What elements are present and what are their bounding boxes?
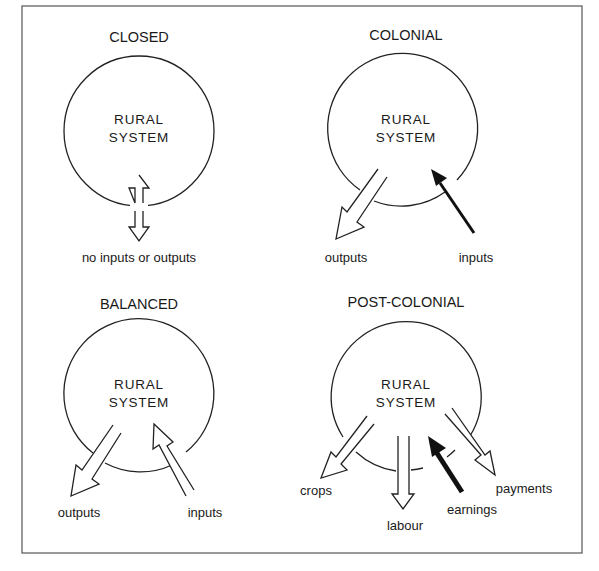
panel-title: COLONIAL: [369, 27, 442, 43]
flow-label-inputs: inputs: [459, 250, 494, 265]
panel-title: POST-COLONIAL: [348, 294, 465, 310]
flow-label-none: no inputs or outputs: [82, 250, 197, 265]
bidirectional-arrow-icon: [129, 175, 149, 241]
panel-closed: CLOSED RURAL SYSTEM no inputs or outputs: [64, 29, 214, 265]
panel-colonial: COLONIAL RURAL SYSTEM outputs inputs: [325, 27, 494, 265]
system-label-line2: SYSTEM: [376, 130, 436, 145]
outputs-outline-arrow-icon: [71, 425, 121, 496]
rural-systems-diagram: CLOSED RURAL SYSTEM no inputs or outputs…: [0, 0, 599, 571]
earnings-solid-arrow-icon: [428, 436, 462, 492]
flow-label-labour: labour: [387, 518, 424, 533]
figure-frame: [22, 6, 582, 553]
system-label-line1: RURAL: [114, 377, 164, 392]
flow-label-outputs: outputs: [325, 250, 368, 265]
panel-title: CLOSED: [109, 29, 169, 45]
crops-outline-arrow-icon: [321, 416, 374, 478]
outputs-outline-arrow-icon: [336, 169, 387, 239]
system-label-line1: RURAL: [381, 112, 431, 127]
system-label-line2: SYSTEM: [109, 130, 169, 145]
payments-outline-arrow-icon: [445, 408, 495, 475]
panel-post-colonial: POST-COLONIAL RURAL SYSTEM crops labour …: [300, 294, 553, 533]
inputs-outline-arrow-icon: [153, 424, 194, 496]
panel-balanced: BALANCED RURAL SYSTEM outputs inputs: [58, 296, 223, 520]
flow-label-inputs: inputs: [188, 505, 223, 520]
system-label-line1: RURAL: [114, 112, 164, 127]
system-label-line1: RURAL: [381, 377, 431, 392]
flow-label-outputs: outputs: [58, 505, 101, 520]
flow-label-earnings: earnings: [447, 502, 497, 517]
system-label-line2: SYSTEM: [376, 395, 436, 410]
inputs-solid-arrow-icon: [431, 169, 474, 233]
labour-outline-arrow-icon: [392, 436, 414, 509]
flow-label-crops: crops: [300, 483, 332, 498]
flow-label-payments: payments: [496, 481, 553, 496]
panel-title: BALANCED: [100, 296, 178, 312]
system-label-line2: SYSTEM: [109, 395, 169, 410]
